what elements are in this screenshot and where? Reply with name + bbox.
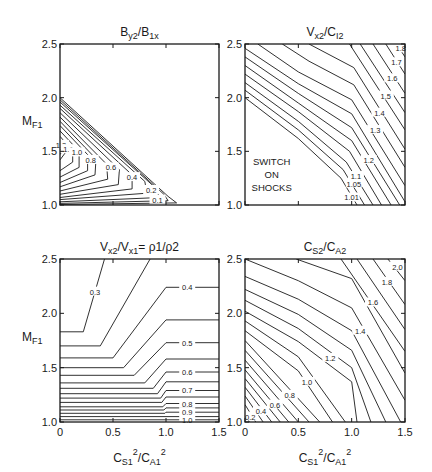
contour-label: 1.0 bbox=[182, 416, 192, 425]
x-tick-label: 1.0 bbox=[344, 426, 359, 438]
x-tick-label: 1.0 bbox=[158, 426, 173, 438]
x-tick-label: 1.5 bbox=[397, 426, 412, 438]
contour-label: 0.8 bbox=[182, 400, 192, 409]
contour-lines bbox=[245, 44, 405, 205]
y-tick-label: 2.5 bbox=[42, 253, 57, 265]
contour-label: 0.6 bbox=[270, 401, 280, 410]
y-tick-label: 1.0 bbox=[227, 199, 242, 211]
contour-label: 0.8 bbox=[285, 391, 295, 400]
contour-label: 1.5 bbox=[381, 92, 391, 101]
x-tick-label: 0 bbox=[57, 426, 63, 438]
y-tick-label: 2.0 bbox=[42, 92, 57, 104]
contour-label: 2.0 bbox=[392, 263, 402, 272]
y-tick-label: 2.0 bbox=[42, 307, 57, 319]
annotation-text: SWITCH bbox=[253, 156, 291, 167]
contour-figure: 1.21.11.00.80.60.40.20.11.01.52.02.5By2/… bbox=[0, 0, 432, 472]
annotation-text: ON bbox=[265, 169, 279, 180]
plot-frame bbox=[245, 44, 405, 205]
x-axis-label: CS12/CA12 bbox=[299, 447, 352, 467]
y-tick-label: 2.0 bbox=[227, 307, 242, 319]
y-tick-label: 1.0 bbox=[42, 416, 57, 428]
contour-label: 0.7 bbox=[182, 386, 192, 395]
contour-label: 0.4 bbox=[182, 283, 192, 292]
contour-label: 1.0 bbox=[302, 378, 312, 387]
contour-label: 1.7 bbox=[391, 58, 401, 67]
y-axis-label: MF1 bbox=[22, 330, 43, 346]
y-tick-label: 2.0 bbox=[227, 92, 242, 104]
y-tick-label: 1.5 bbox=[42, 145, 57, 157]
y-tick-label: 1.5 bbox=[227, 362, 242, 374]
x-tick-label: 0.5 bbox=[291, 426, 306, 438]
contour-label: 1.8 bbox=[382, 278, 392, 287]
contour-label: 0.6 bbox=[182, 368, 192, 377]
panel-cs2_over_ca2: 0.20.40.60.81.01.21.41.61.82.000.51.01.5… bbox=[227, 240, 413, 467]
contour-label: 0.6 bbox=[106, 163, 116, 172]
contour-label: 1.4 bbox=[355, 327, 365, 336]
contour-label: 1.6 bbox=[387, 74, 397, 83]
contour-line bbox=[60, 259, 150, 346]
contour-label: 0.5 bbox=[182, 339, 192, 348]
y-tick-label: 2.5 bbox=[227, 253, 242, 265]
panel-title: Vx2/Vx1= ρ1/ρ2 bbox=[100, 240, 179, 256]
contour-label: 1.6 bbox=[368, 298, 378, 307]
y-tick-label: 1.5 bbox=[42, 362, 57, 374]
contour-line bbox=[296, 259, 405, 373]
panel-title: By2/B1x bbox=[120, 25, 159, 41]
contour-label: 1.1 bbox=[351, 172, 361, 181]
y-axis-label: MF1 bbox=[22, 114, 43, 130]
x-tick-label: 0 bbox=[242, 426, 248, 438]
contour-label: 0.4 bbox=[256, 407, 266, 416]
panel-vx2_over_vx1_density_ratio: 0.30.40.50.60.70.80.91.000.51.01.51.01.5… bbox=[22, 240, 227, 467]
annotation-text: SHOCKS bbox=[252, 182, 292, 193]
contour-line bbox=[60, 287, 219, 358]
y-tick-label: 1.0 bbox=[42, 199, 57, 211]
contour-label: 1.2 bbox=[364, 156, 374, 165]
panel-vx2_over_ci2: 1.011.051.11.21.31.41.51.61.71.81.01.52.… bbox=[227, 25, 409, 211]
y-tick-label: 1.5 bbox=[227, 145, 242, 157]
x-tick-label: 1.5 bbox=[211, 426, 226, 438]
panel-by2_over_b1x: 1.21.11.00.80.60.40.20.11.01.52.02.5By2/… bbox=[22, 25, 219, 211]
y-tick-label: 2.5 bbox=[42, 38, 57, 50]
contour-label: 1.2 bbox=[325, 354, 335, 363]
contour-label: 0.2 bbox=[146, 186, 156, 195]
contour-label: 0.8 bbox=[86, 156, 96, 165]
panel-title: Vx2/CI2 bbox=[306, 25, 343, 41]
contour-label: 1.4 bbox=[374, 109, 384, 118]
contour-label: 0.3 bbox=[90, 288, 100, 297]
panel-title: CS2/CA2 bbox=[304, 240, 347, 256]
contour-label: 0.1 bbox=[152, 196, 162, 205]
x-axis-label: CS12/CA12 bbox=[113, 447, 166, 467]
y-tick-label: 2.5 bbox=[227, 38, 242, 50]
y-tick-label: 1.0 bbox=[227, 416, 242, 428]
contour-label: 1.0 bbox=[72, 148, 82, 157]
contour-label: 1.3 bbox=[370, 126, 380, 135]
contour-line bbox=[245, 311, 357, 422]
contour-label: 0.4 bbox=[127, 173, 137, 182]
x-tick-label: 0.5 bbox=[105, 426, 120, 438]
